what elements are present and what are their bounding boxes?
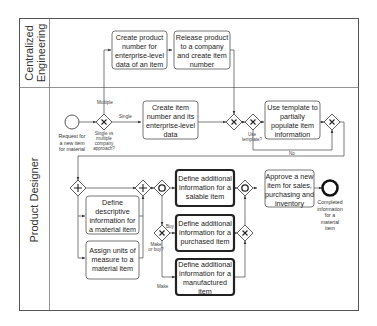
svg-text:material item: material item	[92, 264, 133, 273]
bpmn-diagram: Centralized Engineering Product Designer	[0, 0, 377, 326]
svg-text:item for sales,: item for sales,	[267, 181, 312, 190]
svg-text:enterprise-level: enterprise-level	[146, 121, 196, 130]
svg-text:Define additional: Define additional	[178, 219, 232, 228]
svg-text:approach?: approach?	[93, 146, 115, 151]
svg-text:and create item: and create item	[177, 51, 227, 60]
svg-text:template?: template?	[242, 137, 263, 142]
svg-text:information: information	[275, 130, 311, 139]
end-event[interactable]	[323, 181, 338, 196]
svg-text:Define additional: Define additional	[178, 260, 232, 269]
svg-text:data of an item: data of an item	[116, 60, 164, 69]
task-define-descriptive[interactable]: Define descriptive information for a mat…	[86, 196, 139, 234]
svg-text:Engineering: Engineering	[35, 24, 47, 83]
flow-label-multiple: Multiple	[97, 100, 113, 105]
svg-text:salable item: salable item	[186, 192, 224, 201]
task-define-purchased[interactable]: Define additional information for a purc…	[176, 215, 234, 251]
gateway-single-vs-multiple-label: Single vs multiple company approach?	[93, 131, 115, 151]
svg-text:number: number	[190, 60, 215, 69]
svg-text:information for a: information for a	[179, 228, 231, 237]
task-assign-units[interactable]: Assign units of measure to a material it…	[86, 241, 139, 279]
svg-text:information: information	[317, 206, 343, 212]
svg-text:information for a: information for a	[179, 183, 231, 192]
svg-text:inventory: inventory	[275, 199, 305, 208]
task-approve-item[interactable]: Approve a new item for sales, purchasing…	[265, 170, 314, 208]
svg-text:number for: number for	[122, 42, 157, 51]
svg-text:purchasing and: purchasing and	[265, 190, 314, 199]
svg-text:material: material	[321, 219, 339, 225]
task-create-product-number[interactable]: Create product number for enterprise-lev…	[112, 31, 167, 69]
svg-text:Define: Define	[102, 198, 123, 207]
svg-text:Request for: Request for	[59, 133, 86, 139]
svg-text:Use template to: Use template to	[267, 103, 317, 112]
start-event[interactable]	[65, 115, 79, 129]
svg-text:number and its: number and its	[147, 112, 195, 121]
svg-text:measure to a: measure to a	[92, 255, 134, 264]
svg-text:Create product: Create product	[116, 33, 164, 42]
svg-text:Release product: Release product	[176, 33, 228, 42]
svg-text:item: item	[198, 287, 212, 296]
flow-label-make: Make	[157, 284, 169, 289]
svg-text:data: data	[164, 130, 178, 139]
svg-text:to a company: to a company	[180, 42, 224, 51]
task-define-salable[interactable]: Define additional information for a sala…	[176, 170, 234, 206]
svg-text:Centralized: Centralized	[23, 25, 35, 81]
task-use-template[interactable]: Use template to partially populate item …	[265, 101, 320, 139]
svg-text:Approve a new: Approve a new	[266, 172, 315, 181]
svg-text:purchased item: purchased item	[180, 237, 229, 246]
svg-text:enterprise-level: enterprise-level	[115, 51, 165, 60]
lane-label-product-designer: Product Designer	[28, 157, 40, 242]
svg-text:a material item: a material item	[89, 225, 136, 234]
flow-label-no: No	[289, 151, 295, 156]
svg-text:partially: partially	[280, 112, 305, 121]
flow-label-single: Single	[119, 114, 132, 119]
svg-text:Define additional: Define additional	[178, 174, 232, 183]
svg-text:item: item	[325, 225, 335, 231]
svg-text:or buy?: or buy?	[148, 247, 164, 252]
svg-text:descriptive: descriptive	[95, 207, 129, 216]
task-define-manufactured[interactable]: Define additional information for a manu…	[176, 259, 234, 296]
svg-text:information for: information for	[90, 216, 137, 225]
svg-text:Assign units of: Assign units of	[89, 246, 136, 255]
svg-text:Create item: Create item	[152, 103, 189, 112]
svg-text:information for a: information for a	[179, 269, 231, 278]
svg-text:Completed: Completed	[317, 199, 342, 205]
flow-label-buy: Buy	[166, 224, 175, 229]
svg-text:manufactured: manufactured	[183, 278, 227, 287]
svg-text:a new item: a new item	[59, 140, 84, 146]
lane-label-centralized-engineering: Centralized Engineering	[23, 24, 47, 83]
task-create-item-number[interactable]: Create item number and its enterprise-le…	[143, 101, 198, 139]
svg-text:for a: for a	[325, 212, 335, 218]
svg-text:for material: for material	[59, 146, 85, 152]
svg-text:populate item: populate item	[271, 121, 314, 130]
start-event-label: Request for a new item for material	[59, 133, 86, 152]
task-release-product[interactable]: Release product to a company and create …	[174, 31, 230, 69]
